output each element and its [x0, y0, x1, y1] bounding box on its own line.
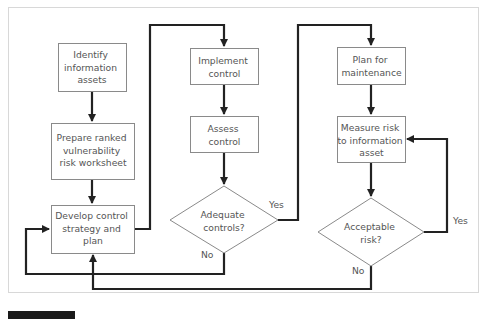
edge-label-acceptable-no: No: [352, 265, 365, 276]
edge-label-acceptable-yes: Yes: [452, 215, 468, 226]
node-assess-label: Assess control: [207, 123, 241, 147]
edge-acceptable-yes-measure: [407, 139, 447, 232]
figure-label-tab: [8, 311, 75, 319]
node-acceptable: [318, 198, 424, 266]
node-prepare-label: Prepare ranked vulnerability risk worksh…: [57, 132, 130, 168]
edge-label-adequate-no: No: [201, 249, 214, 260]
flowchart: Identify information assets Prepare rank…: [0, 0, 486, 319]
edge-label-adequate-yes: Yes: [268, 199, 284, 210]
node-assess: [191, 117, 259, 153]
node-implement: [191, 49, 259, 85]
edge-acceptable-no-develop: [93, 255, 371, 289]
node-adequate-label: Adequate controls?: [200, 209, 247, 233]
